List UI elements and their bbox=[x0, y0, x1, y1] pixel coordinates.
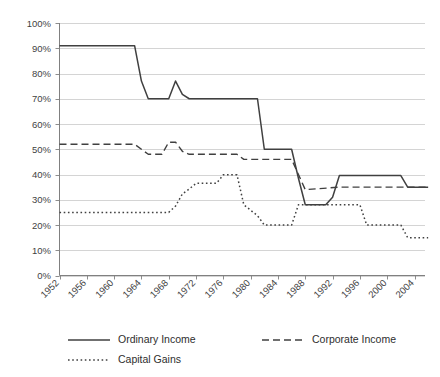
y-axis-label-10: 10% bbox=[32, 245, 52, 256]
y-axis-label-70: 70% bbox=[32, 93, 52, 104]
y-axis-label-40: 40% bbox=[32, 169, 52, 180]
series-line-capital-gains bbox=[60, 175, 429, 238]
series-line-ordinary-income bbox=[60, 46, 429, 205]
x-axis-label-1964: 1964 bbox=[120, 277, 143, 300]
x-axis-label-1956: 1956 bbox=[65, 277, 88, 300]
x-axis-label-2000: 2000 bbox=[366, 277, 389, 300]
legend-label-capital-gains: Capital Gains bbox=[118, 353, 181, 365]
y-axis-label-90: 90% bbox=[32, 43, 52, 54]
x-axis-label-2004: 2004 bbox=[393, 277, 416, 300]
legend-item-capital-gains[interactable]: Capital Gains bbox=[68, 353, 181, 365]
legend-item-corporate-income[interactable]: Corporate Income bbox=[262, 333, 396, 345]
legend-item-ordinary-income[interactable]: Ordinary Income bbox=[68, 333, 196, 345]
x-axis-label-1980: 1980 bbox=[229, 277, 252, 300]
y-axis-label-50: 50% bbox=[32, 144, 52, 155]
y-axis-label-100: 100% bbox=[27, 18, 52, 29]
tax-rates-line-chart: 0%10%20%30%40%50%60%70%80%90%100% 195219… bbox=[0, 0, 440, 377]
chart-legend: Ordinary IncomeCorporate IncomeCapital G… bbox=[68, 333, 396, 365]
x-axis-label-1976: 1976 bbox=[202, 277, 225, 300]
y-axis-label-20: 20% bbox=[32, 220, 52, 231]
x-axis-tick-labels: 1952195619601964196819721976198019841988… bbox=[38, 277, 416, 300]
x-axis-label-1972: 1972 bbox=[175, 277, 198, 300]
x-axis-label-1968: 1968 bbox=[147, 277, 170, 300]
y-axis-label-0: 0% bbox=[37, 270, 51, 281]
x-axis-label-1984: 1984 bbox=[257, 277, 280, 300]
y-axis-tick-labels: 0%10%20%30%40%50%60%70%80%90%100% bbox=[27, 18, 52, 282]
legend-label-corporate-income: Corporate Income bbox=[312, 333, 396, 345]
x-axis-label-1996: 1996 bbox=[339, 277, 362, 300]
legend-label-ordinary-income: Ordinary Income bbox=[118, 333, 196, 345]
x-axis-label-1992: 1992 bbox=[311, 277, 334, 300]
x-axis-label-1988: 1988 bbox=[284, 277, 307, 300]
y-axis-label-30: 30% bbox=[32, 194, 52, 205]
x-axis-label-1960: 1960 bbox=[93, 277, 116, 300]
y-axis-label-80: 80% bbox=[32, 68, 52, 79]
chart-container: 0%10%20%30%40%50%60%70%80%90%100% 195219… bbox=[0, 0, 440, 377]
gridlines bbox=[60, 24, 426, 277]
y-axis-label-60: 60% bbox=[32, 119, 52, 130]
y-tick-marks bbox=[56, 24, 60, 277]
